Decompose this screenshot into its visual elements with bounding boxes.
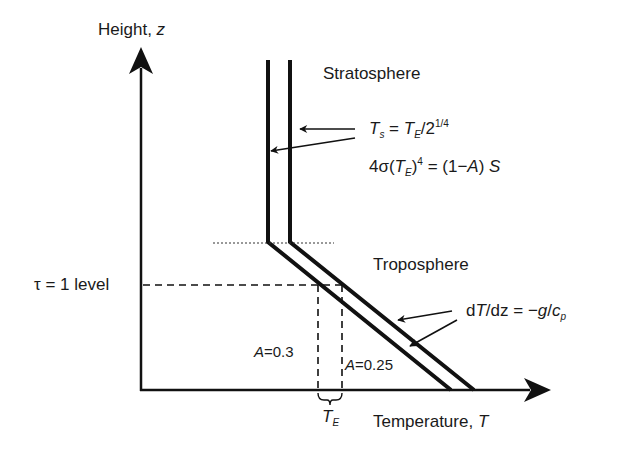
x-axis [140,378,551,402]
albedo-label-0.25: A=0.25 [345,356,393,373]
te-label: TE [322,407,339,428]
albedo-label-0.3: A=0.3 [254,343,294,360]
te-arrow [271,138,355,151]
atmosphere-profile-diagram [0,0,620,453]
profile-line-albedo-0.25 [290,60,474,390]
energy-balance-equation: 4σ(TE)4 = (1−A) S [369,156,500,178]
tau-level-label: τ = 1 level [34,275,109,295]
troposphere-label: Troposphere [373,255,469,275]
lapse-arrow-lower [410,320,457,346]
lapse-arrow-upper [398,311,452,320]
stratosphere-temp-equation: Ts = TE/21/4 [369,118,449,140]
lapse-rate-equation: dT/dz = −g/cp [466,301,566,322]
te-brace [318,393,342,405]
y-axis-label: Height, z [98,20,165,40]
profile-line-albedo-0.3 [268,60,451,390]
stratosphere-label: Stratosphere [323,64,420,84]
x-axis-label: Temperature, T [373,412,488,432]
y-axis [129,47,153,391]
